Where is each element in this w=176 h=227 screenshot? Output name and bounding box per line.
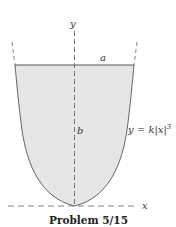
right-dashed-extension xyxy=(134,42,137,65)
width-label-a: a xyxy=(100,52,106,63)
figure-canvas: y a b y = k|x|3 x Problem 5/15 xyxy=(0,0,176,227)
height-label-b: b xyxy=(77,125,83,136)
y-axis-label: y xyxy=(69,18,76,29)
x-axis-label: x xyxy=(142,200,148,211)
left-dashed-extension xyxy=(12,42,15,65)
equation-label: y = k|x|3 xyxy=(127,123,172,136)
figure-caption: Problem 5/15 xyxy=(49,214,128,226)
